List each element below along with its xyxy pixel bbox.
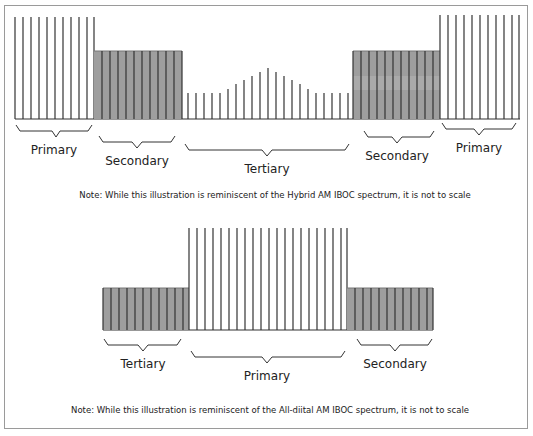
note-all-digital: Note: While this illustration is reminis… [71, 405, 469, 415]
label-primary-bottom: Primary [244, 369, 290, 383]
all-digital-secondary [347, 288, 433, 330]
hybrid-braces [16, 123, 516, 156]
label-primary-right: Primary [456, 141, 502, 155]
label-primary-left: Primary [31, 143, 77, 157]
all-digital-tertiary [103, 288, 189, 330]
all-digital-spectrum [103, 228, 433, 330]
label-secondary-left: Secondary [105, 154, 169, 168]
hybrid-secondary-right [353, 51, 440, 119]
hybrid-secondary-left [94, 51, 182, 119]
label-secondary-right: Secondary [365, 149, 429, 163]
label-tertiary-bottom: Tertiary [120, 357, 165, 371]
note-hybrid: Note: While this illustration is reminis… [79, 190, 470, 200]
hybrid-tertiary [188, 68, 348, 119]
hybrid-primary-right [440, 15, 519, 119]
hybrid-primary-left [15, 17, 94, 119]
hybrid-spectrum [15, 15, 520, 119]
label-tertiary: Tertiary [244, 162, 289, 176]
all-digital-primary [189, 228, 347, 330]
label-secondary-bottom: Secondary [363, 357, 427, 371]
